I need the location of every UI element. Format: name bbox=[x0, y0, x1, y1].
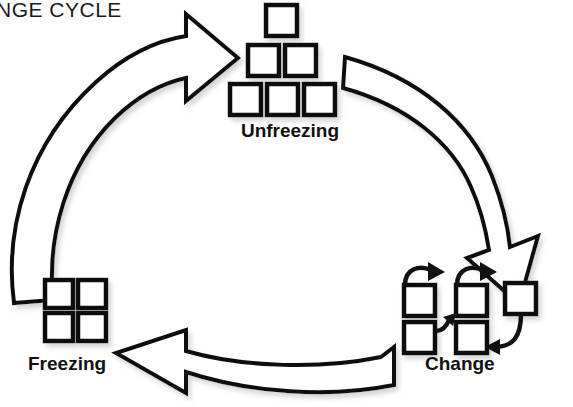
unfreezing-box bbox=[285, 45, 316, 76]
connector-unfreezing-to-change bbox=[343, 57, 538, 304]
unfreezing-box bbox=[230, 84, 261, 115]
freezing-box bbox=[78, 313, 106, 341]
change-box bbox=[404, 285, 435, 316]
change-box bbox=[456, 285, 487, 316]
freezing-box bbox=[45, 280, 73, 308]
change-mini-arrow bbox=[485, 314, 521, 355]
page-title: NGE CYCLE bbox=[0, 0, 122, 21]
diagram-canvas: NGE CYCLE Unf bbox=[0, 0, 573, 407]
change-box bbox=[404, 322, 435, 353]
connector-freezing-to-unfreezing bbox=[12, 14, 238, 303]
freezing-box bbox=[78, 280, 106, 308]
stage-label-freezing: Freezing bbox=[28, 353, 106, 374]
connector-change-to-freezing bbox=[116, 330, 394, 393]
unfreezing-box bbox=[304, 84, 335, 115]
stage-label-unfreezing: Unfreezing bbox=[241, 120, 339, 141]
change-box bbox=[456, 322, 487, 353]
freezing-box bbox=[45, 313, 73, 341]
unfreezing-box bbox=[267, 84, 298, 115]
unfreezing-node-group: Unfreezing bbox=[230, 5, 339, 141]
stage-label-change: Change bbox=[425, 353, 495, 374]
change-mini-arrow bbox=[405, 262, 445, 285]
change-mini-arrow bbox=[436, 313, 456, 331]
unfreezing-box bbox=[266, 5, 297, 36]
change-box bbox=[505, 283, 536, 314]
unfreezing-box bbox=[248, 45, 279, 76]
change-cycle-diagram: NGE CYCLE Unf bbox=[0, 0, 573, 407]
